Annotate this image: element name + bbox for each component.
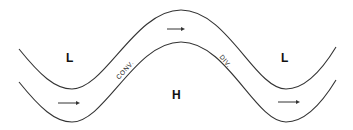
- flow-arrow-left-icon: [58, 101, 80, 105]
- jet-stream-wave-diagram: L H L CONV. DIV.: [0, 0, 353, 130]
- low-pressure-label-right: L: [281, 52, 288, 64]
- low-pressure-label-left: L: [66, 52, 73, 64]
- flow-arrow-right-icon: [278, 100, 300, 104]
- flow-arrow-top-icon: [167, 27, 185, 31]
- high-pressure-label: H: [172, 89, 181, 101]
- upper-streamline: [19, 10, 336, 89]
- diagram-graphics: [0, 0, 353, 130]
